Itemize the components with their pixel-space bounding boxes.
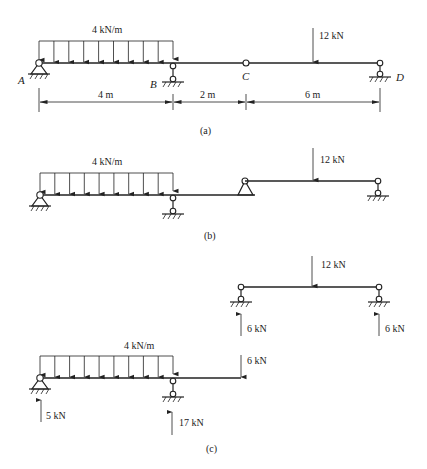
point-D-label: D	[395, 71, 404, 83]
roller-support-B-c	[162, 378, 184, 402]
figure-c-lower: 4 kN/m 6 kN 5 kN 17 kN (c)	[29, 340, 267, 455]
caption-a: (a)	[200, 125, 211, 137]
reaction-label-B-c: 17 kN	[179, 417, 204, 428]
end-load-label-c: 6 kN	[247, 355, 267, 366]
point-load-label-a: 12 kN	[319, 30, 344, 41]
hinge-C	[243, 60, 249, 66]
point-A-label: A	[17, 74, 25, 86]
reaction-label-A-c: 5 kN	[46, 410, 66, 421]
distributed-load-a: 4 kN/m	[39, 24, 173, 62]
figure-b: 4 kN/m 12 kN (b)	[29, 148, 389, 242]
caption-c: (c)	[206, 443, 217, 455]
point-B-label: B	[150, 78, 157, 90]
distributed-load-label-c: 4 kN/m	[124, 340, 155, 351]
reaction-label-D: 6 kN	[385, 323, 405, 334]
load-arrows	[39, 41, 173, 62]
beam-diagram: 4 kN/m A B C 12 kN	[0, 0, 427, 469]
reaction-label-C: 6 kN	[247, 323, 267, 334]
dimension-AB: 4 m	[98, 89, 114, 100]
figure-c-upper: 12 kN 6 kN 6 kN	[230, 256, 405, 336]
caption-b: (b)	[204, 230, 216, 242]
distributed-load-b: 4 kN/m	[40, 156, 173, 194]
point-load-label-c: 12 kN	[321, 259, 346, 270]
dimension-lines: 4 m 2 m 6 m	[39, 88, 380, 112]
distributed-load-label: 4 kN/m	[92, 24, 123, 35]
figure-a: 4 kN/m A B C 12 kN	[17, 24, 404, 137]
point-load-label-b: 12 kN	[320, 154, 345, 165]
dimension-CD: 6 m	[305, 89, 321, 100]
distributed-load-label-b: 4 kN/m	[92, 156, 123, 167]
point-C-label: C	[242, 70, 250, 82]
distributed-load-c: 4 kN/m	[40, 340, 173, 377]
roller-support-B	[162, 63, 184, 87]
roller-support-B-b	[162, 195, 184, 219]
dimension-BC: 2 m	[200, 89, 216, 100]
